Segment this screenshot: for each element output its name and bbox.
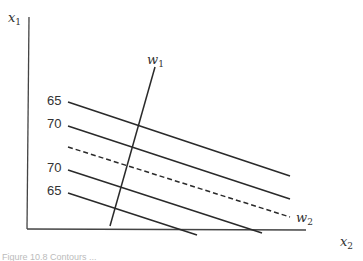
contour-label-65-upper: 65 xyxy=(47,93,61,108)
y-axis-label: x1 xyxy=(8,10,21,27)
contour-label-70-lower: 70 xyxy=(47,160,61,175)
x-axis-label: x2 xyxy=(340,234,353,251)
contour-label-65-lower: 65 xyxy=(47,183,61,198)
y-axis xyxy=(27,17,29,229)
w1-line xyxy=(110,67,155,226)
contour-65-upper xyxy=(68,102,290,176)
contour-70-upper xyxy=(68,126,290,199)
figure-caption: Figure 10.8 Contours ... xyxy=(2,252,97,261)
diagram-canvas: x1 x2 w1 w2 65 70 70 65 Figure 10.8 Cont… xyxy=(0,0,363,261)
x-axis xyxy=(27,229,306,230)
w2-label: w2 xyxy=(296,210,313,227)
w1-label: w1 xyxy=(147,52,164,69)
contour-label-70-upper: 70 xyxy=(47,116,61,131)
